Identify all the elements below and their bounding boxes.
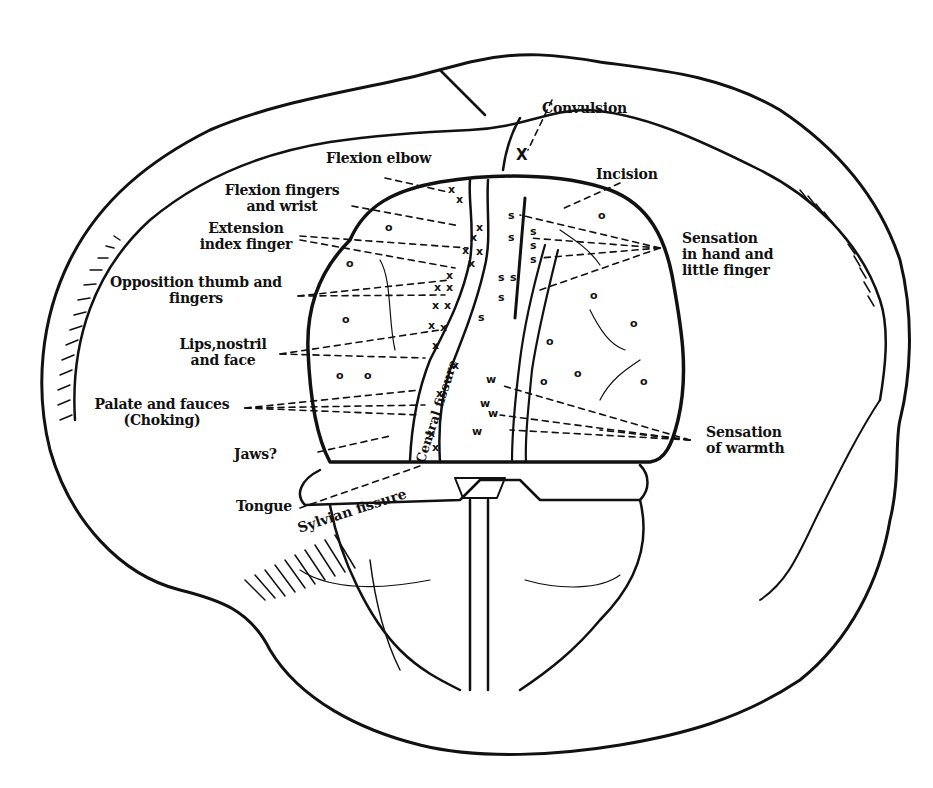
negative-point: o (342, 314, 350, 325)
marker-convulsion: X (516, 150, 528, 161)
motor-point: x (446, 270, 453, 281)
label-sensation-hand-line3: little finger (682, 262, 773, 278)
label-sensation-warmth-line2: of warmth (706, 440, 784, 456)
warmth-point: w (472, 426, 482, 437)
label-extension-index-line1: Extension (190, 220, 302, 236)
negative-point: o (630, 318, 638, 329)
label-palate-line2: (Choking) (82, 412, 242, 428)
negative-point: o (546, 336, 554, 347)
label-flexion-elbow: Flexion elbow (326, 150, 431, 166)
motor-point: x (446, 282, 453, 293)
sensory-point: s (508, 232, 515, 243)
label-sensation-hand-line1: Sensation (682, 230, 773, 246)
motor-point: x (448, 184, 455, 195)
sensory-point: s (498, 272, 505, 283)
motor-point: x (436, 388, 443, 399)
label-sensation-warmth-line1: Sensation (706, 424, 784, 440)
label-lips-line1: Lips,nostril (168, 336, 278, 352)
motor-point: x (432, 300, 439, 311)
sensory-point: s (508, 210, 515, 221)
sensory-point: s (510, 272, 517, 283)
motor-point: x (432, 340, 439, 351)
motor-point: x (440, 322, 447, 333)
label-convulsion: Convulsion (542, 100, 627, 116)
label-jaws: Jaws? (234, 446, 277, 462)
negative-point: o (385, 222, 393, 233)
label-lips-line2: and face (168, 352, 278, 368)
sensory-point: s (478, 312, 485, 323)
sensory-point: s (530, 226, 537, 237)
motor-point: x (462, 245, 469, 256)
negative-point: o (336, 370, 344, 381)
label-extension-index: Extension index finger (190, 220, 302, 252)
label-sensation-hand-line2: in hand and (682, 246, 773, 262)
negative-point: o (346, 258, 354, 269)
label-sensation-hand: Sensation in hand and little finger (682, 230, 773, 278)
label-flexion-fingers-line1: Flexion fingers (212, 182, 352, 198)
motor-point: x (452, 360, 459, 371)
label-incision: Incision (596, 166, 658, 182)
motor-point: x (476, 246, 483, 257)
label-flexion-fingers-line2: and wrist (212, 198, 352, 214)
motor-point: x (428, 320, 435, 331)
motor-point: x (468, 258, 475, 269)
motor-point: x (470, 232, 477, 243)
motor-point: x (444, 300, 451, 311)
label-opposition-line1: Opposition thumb and (98, 274, 294, 290)
negative-point: o (590, 290, 598, 301)
sensory-point: s (530, 240, 537, 251)
brain-drawing (0, 0, 933, 788)
negative-point: o (574, 368, 582, 379)
motor-point: x (428, 428, 435, 439)
motor-point: x (432, 442, 439, 453)
label-lips: Lips,nostril and face (168, 336, 278, 368)
label-palate: Palate and fauces (Choking) (82, 396, 242, 428)
label-sensation-warmth: Sensation of warmth (706, 424, 784, 456)
label-opposition: Opposition thumb and fingers (98, 274, 294, 306)
incision-line (515, 198, 525, 318)
negative-point: o (598, 210, 606, 221)
label-extension-index-line2: index finger (190, 236, 302, 252)
warmth-point: w (486, 374, 496, 385)
label-opposition-line2: fingers (98, 290, 294, 306)
label-palate-line1: Palate and fauces (82, 396, 242, 412)
brain-diagram: Convulsion X Flexion elbow Incision Flex… (0, 0, 933, 788)
motor-point: x (434, 282, 441, 293)
negative-point: o (640, 376, 648, 387)
sensory-point: s (498, 292, 505, 303)
sensory-point: s (530, 254, 537, 265)
negative-point: o (364, 370, 372, 381)
label-tongue: Tongue (236, 498, 292, 514)
motor-point: x (456, 194, 463, 205)
negative-point: o (540, 376, 548, 387)
label-flexion-fingers: Flexion fingers and wrist (212, 182, 352, 214)
warmth-point: w (488, 408, 498, 419)
